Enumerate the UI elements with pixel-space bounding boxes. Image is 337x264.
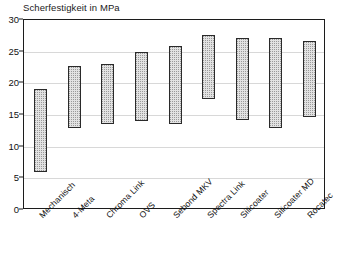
gridline (24, 147, 324, 148)
bar-4-meta (68, 66, 81, 127)
y-axis-tick-label: 10 (0, 140, 19, 151)
bar-rocatec (303, 41, 316, 117)
bar-ovs (135, 52, 148, 121)
bar-chroma-link (101, 64, 114, 124)
chart-container: Scherfestigkeit in MPa 051015202530 Mech… (0, 0, 337, 264)
bar-spectra-link (202, 35, 215, 98)
chart-title: Scherfestigkeit in MPa (23, 2, 120, 13)
y-axis-tick-label: 5 (0, 172, 19, 183)
y-axis-tick-label: 15 (0, 109, 19, 120)
bar-mechanisch (34, 89, 47, 172)
y-axis-tick-label: 0 (0, 204, 19, 215)
y-axis-tick-label: 20 (0, 77, 19, 88)
y-axis-tick-label: 25 (0, 45, 19, 56)
bar-silicoater-md (269, 38, 282, 127)
y-axis-tick-label: 30 (0, 14, 19, 25)
bar-silicoater (236, 38, 249, 120)
bar-sebond-mkv (169, 46, 182, 124)
